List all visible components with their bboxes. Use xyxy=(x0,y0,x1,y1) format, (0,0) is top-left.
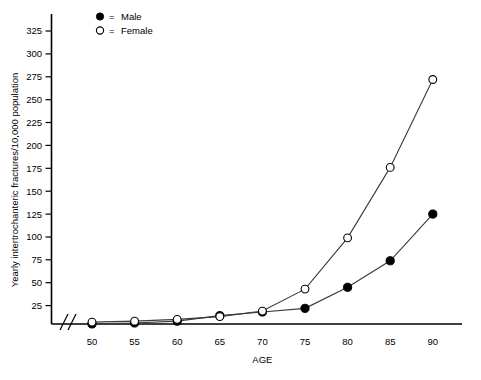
data-point-female-age-80 xyxy=(344,234,352,242)
data-point-male-age-85 xyxy=(386,257,394,265)
y-tick-label: 75 xyxy=(31,254,42,265)
legend-label-male: Male xyxy=(121,11,142,22)
data-point-female-age-75 xyxy=(301,285,309,293)
x-tick-label: 90 xyxy=(428,336,439,347)
data-point-female-age-65 xyxy=(216,313,224,321)
y-axis-tick-labels: 325 300 275 250 225 200 175 150 125 100 … xyxy=(26,25,42,311)
y-tick-label: 50 xyxy=(31,277,42,288)
x-tick-label: 60 xyxy=(172,336,183,347)
y-tick-label: 100 xyxy=(26,231,42,242)
x-tick-label: 75 xyxy=(300,336,311,347)
chart-figure: 325 300 275 250 225 200 175 150 125 100 … xyxy=(0,0,481,380)
x-tick-label: 65 xyxy=(215,336,226,347)
y-tick-label: 175 xyxy=(26,163,42,174)
data-point-female-age-70 xyxy=(259,307,267,315)
data-point-male-age-75 xyxy=(301,304,309,312)
data-point-male-age-80 xyxy=(344,283,352,291)
y-tick-label: 125 xyxy=(26,209,42,220)
legend-marker-male-icon xyxy=(96,13,103,20)
legend-label-female: Female xyxy=(121,25,153,36)
data-point-female-age-90 xyxy=(429,76,437,84)
y-tick-label: 25 xyxy=(31,300,42,311)
x-axis-tick-labels: 50 55 60 65 70 75 80 85 90 xyxy=(87,336,438,347)
legend-equals-female: = xyxy=(109,25,115,36)
x-tick-label: 50 xyxy=(87,336,98,347)
data-point-female-age-60 xyxy=(173,315,181,323)
y-tick-label: 275 xyxy=(26,71,42,82)
y-tick-label: 200 xyxy=(26,140,42,151)
data-point-male-age-90 xyxy=(429,210,437,218)
chart-legend: = Male = Female xyxy=(96,11,152,36)
data-point-female-age-55 xyxy=(131,317,139,325)
x-tick-label: 55 xyxy=(129,336,140,347)
y-tick-label: 325 xyxy=(26,25,42,36)
axis-break-icon xyxy=(60,314,76,330)
legend-equals-male: = xyxy=(109,11,115,22)
y-tick-label: 300 xyxy=(26,48,42,59)
x-tick-label: 85 xyxy=(385,336,396,347)
line-chart: 325 300 275 250 225 200 175 150 125 100 … xyxy=(0,0,481,380)
y-tick-label: 225 xyxy=(26,117,42,128)
y-tick-label: 250 xyxy=(26,94,42,105)
data-point-female-age-85 xyxy=(386,163,394,171)
y-axis-title: Yearly intertrochanteric fractures/10,00… xyxy=(9,73,20,288)
y-tick-label: 150 xyxy=(26,186,42,197)
series-layer xyxy=(88,76,437,328)
data-point-female-age-50 xyxy=(88,318,96,326)
x-tick-label: 80 xyxy=(342,336,353,347)
y-axis-ticks xyxy=(46,31,52,306)
x-axis-title: AGE xyxy=(252,354,272,365)
series-line-female xyxy=(92,80,433,323)
legend-marker-female-icon xyxy=(96,27,103,34)
x-tick-label: 70 xyxy=(257,336,268,347)
